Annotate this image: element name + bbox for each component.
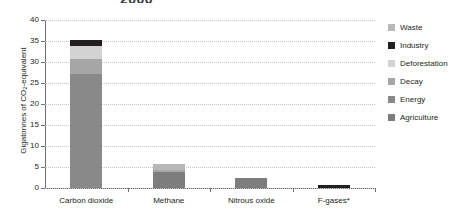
y-tick-label: 20 <box>17 100 39 108</box>
bar-segment-decay <box>153 170 185 173</box>
bar-f-gases[interactable] <box>318 20 350 188</box>
bar-carbon-dioxide[interactable] <box>70 20 102 188</box>
bar-segment-industry <box>318 185 350 188</box>
y-tick-mark <box>41 83 45 84</box>
bar-segment-energy <box>70 74 102 188</box>
y-tick-mark <box>41 125 45 126</box>
y-tick-label: 5 <box>17 163 39 171</box>
legend-swatch-icon <box>388 24 395 31</box>
legend-item-label: Agriculture <box>400 113 438 122</box>
legend-item-label: Industry <box>400 41 428 50</box>
chart-legend: WasteIndustryDeforestationDecayEnergyAgr… <box>388 18 463 126</box>
y-tick-label: 0 <box>17 184 39 192</box>
plot-area <box>45 20 375 188</box>
legend-swatch-icon <box>388 42 395 49</box>
y-tick-mark <box>41 20 45 21</box>
legend-item[interactable]: Agriculture <box>388 108 463 126</box>
legend-item-label: Decay <box>400 77 423 86</box>
legend-item-label: Deforestation <box>400 59 448 68</box>
x-tick-label: Carbon dioxide <box>45 196 128 205</box>
x-tick-mark <box>210 188 211 192</box>
x-tick-label: Methane <box>128 196 211 205</box>
legend-item[interactable]: Industry <box>388 36 463 54</box>
bar-segment-decay <box>70 59 102 74</box>
legend-swatch-icon <box>388 96 395 103</box>
y-tick-mark <box>41 167 45 168</box>
bar-segment-waste <box>153 164 185 169</box>
x-tick-label: F-gases* <box>293 196 376 205</box>
x-tick-mark <box>128 188 129 192</box>
bar-methane[interactable] <box>153 20 185 188</box>
y-tick-mark <box>41 41 45 42</box>
x-tick-mark <box>375 188 376 192</box>
y-tick-mark <box>41 188 45 189</box>
bar-segment-deforestation <box>70 46 102 59</box>
legend-item[interactable]: Waste <box>388 18 463 36</box>
y-tick-label: 10 <box>17 142 39 150</box>
legend-swatch-icon <box>388 114 395 121</box>
chart-title: 2000 <box>120 0 153 3</box>
legend-item[interactable]: Decay <box>388 72 463 90</box>
legend-swatch-icon <box>388 78 395 85</box>
bar-segment-industry <box>70 40 102 45</box>
legend-item[interactable]: Deforestation <box>388 54 463 72</box>
chart-container: 2000 Gigatonnes of CO2-equivalent 051015… <box>0 0 463 220</box>
y-tick-label: 15 <box>17 121 39 129</box>
legend-item-label: Waste <box>400 23 422 32</box>
y-tick-label: 40 <box>17 16 39 24</box>
bar-segment-agriculture <box>153 172 185 188</box>
y-tick-label: 30 <box>17 58 39 66</box>
bar-nitrous-oxide[interactable] <box>235 20 267 188</box>
x-tick-label: Nitrous oxide <box>210 196 293 205</box>
y-tick-label: 35 <box>17 37 39 45</box>
x-tick-mark <box>293 188 294 192</box>
legend-item-label: Energy <box>400 95 425 104</box>
y-tick-mark <box>41 62 45 63</box>
bar-segment-agriculture <box>235 178 267 188</box>
y-tick-label: 25 <box>17 79 39 87</box>
legend-swatch-icon <box>388 60 395 67</box>
legend-item[interactable]: Energy <box>388 90 463 108</box>
y-tick-mark <box>41 146 45 147</box>
y-tick-mark <box>41 104 45 105</box>
